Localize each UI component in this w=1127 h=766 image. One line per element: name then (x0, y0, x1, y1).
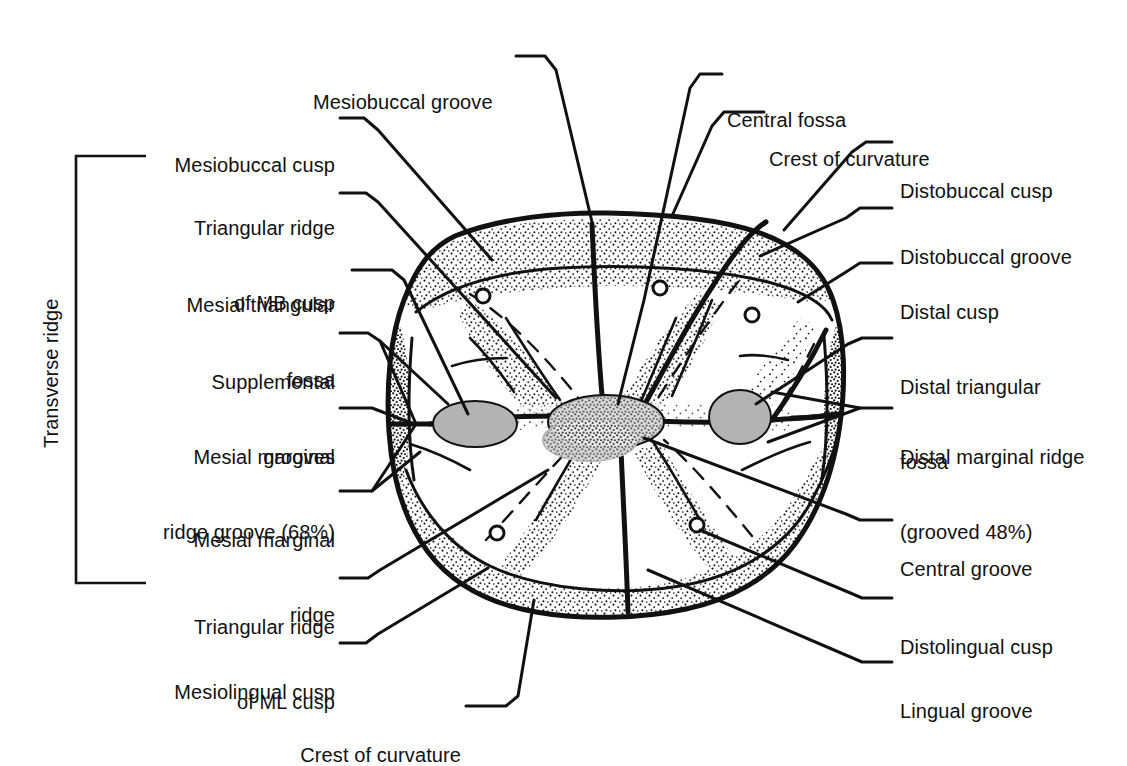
pit-distobuccal (653, 281, 667, 295)
label-line: Distal marginal ridge (900, 445, 1127, 470)
leader-mesiobuccal-groove (516, 56, 592, 222)
label-line: Mesiobuccal groove (313, 90, 513, 115)
mesial-triangular-fossa-shape (433, 401, 517, 447)
label-line: Mesial marginal (75, 528, 335, 553)
label-lingual-groove: Lingual groove (900, 649, 1127, 766)
pit-mesiobuccal (476, 289, 490, 303)
distal-triangular-fossa-shape (709, 390, 771, 444)
leader-crest-curvature-bottom (466, 600, 534, 706)
label-line: Central groove (900, 557, 1127, 582)
label-line: Mesial triangular (55, 293, 335, 318)
label-line: Triangular ridge (75, 216, 335, 241)
label-line: Mesial marginal (45, 445, 335, 470)
label-crest-of-curvature-bottom: Crest of curvature (200, 693, 461, 766)
central-fossa-stipple-2 (544, 421, 636, 461)
label-line: Distal cusp (900, 300, 1127, 325)
label-line: Crest of curvature (200, 743, 461, 766)
label-line: Supplemental (75, 370, 335, 395)
pit-mesiolingual (490, 526, 504, 540)
label-line: Lingual groove (900, 699, 1127, 724)
pit-distal (745, 308, 759, 322)
label-mesiobuccal-groove: Mesiobuccal groove (313, 40, 513, 165)
